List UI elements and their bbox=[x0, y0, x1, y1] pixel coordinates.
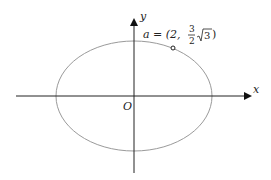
origin-label: O bbox=[123, 100, 132, 113]
fraction-denominator: 2 bbox=[189, 36, 195, 46]
x-axis-label: x bbox=[253, 83, 260, 96]
point-label-prefix: a = (2, bbox=[143, 28, 181, 41]
point-marker bbox=[171, 46, 175, 50]
diagram-canvas: x y O a = (2, 3 2 3 ) bbox=[0, 0, 271, 180]
sqrt-argument: 3 bbox=[204, 30, 210, 41]
y-axis-label: y bbox=[139, 10, 147, 23]
fraction-numerator: 3 bbox=[189, 24, 195, 34]
point-label-suffix: ) bbox=[212, 28, 216, 41]
